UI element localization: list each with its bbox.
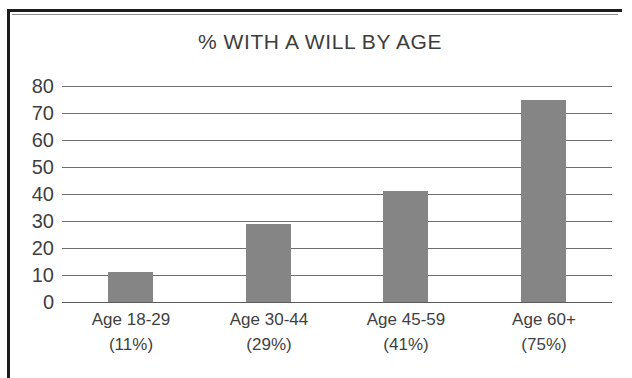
frame-left-border [7,9,10,378]
plot-area [62,86,612,302]
y-tick-label-20: 20 [14,238,54,258]
x-label-age-60: Age 60+(75%) [475,308,613,357]
x-label-category: Age 45-59 [367,310,445,329]
y-axis-tick-labels: 80706050403020100 [14,86,54,302]
x-label-value: (41%) [337,333,475,358]
y-tick-label-40: 40 [14,184,54,204]
chart-screenshot: % WITH A WILL BY AGE 80706050403020100 A… [0,0,632,378]
x-label-category: Age 60+ [512,310,576,329]
bar-age-45-59 [383,191,428,302]
y-tick-label-50: 50 [14,157,54,177]
bar-age-60 [521,100,566,303]
y-tick-label-10: 10 [14,265,54,285]
x-label-age-30-44: Age 30-44(29%) [200,308,338,357]
y-tick-label-60: 60 [14,130,54,150]
y-tick-label-70: 70 [14,103,54,123]
y-tick-label-80: 80 [14,76,54,96]
x-label-value: (75%) [475,333,613,358]
x-label-age-18-29: Age 18-29(11%) [62,308,200,357]
x-label-category: Age 30-44 [230,310,308,329]
y-tick-label-0: 0 [14,292,54,312]
frame-top-border [7,9,622,12]
bar-age-18-29 [108,272,153,302]
x-axis-category-labels: Age 18-29(11%)Age 30-44(29%)Age 45-59(41… [62,308,612,370]
frame-inner-top-rule [12,14,618,15]
chart-title: % WITH A WILL BY AGE [40,30,600,54]
x-label-value: (29%) [200,333,338,358]
y-tick-label-30: 30 [14,211,54,231]
bar-age-30-44 [246,224,291,302]
gridline-0 [62,302,612,303]
x-label-value: (11%) [62,333,200,358]
x-label-category: Age 18-29 [92,310,170,329]
gridline-80 [62,86,612,87]
x-label-age-45-59: Age 45-59(41%) [337,308,475,357]
